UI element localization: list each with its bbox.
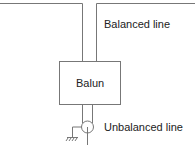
balanced-line-label: Balanced line xyxy=(104,19,170,30)
ground-icon xyxy=(66,138,78,142)
balanced-line-left-conductor xyxy=(0,4,83,62)
unbalanced-line-label: Unbalanced line xyxy=(104,122,183,133)
balanced-line-right-conductor xyxy=(97,4,196,62)
balun-label: Balun xyxy=(76,78,104,89)
shield-ground-wire xyxy=(73,127,82,137)
